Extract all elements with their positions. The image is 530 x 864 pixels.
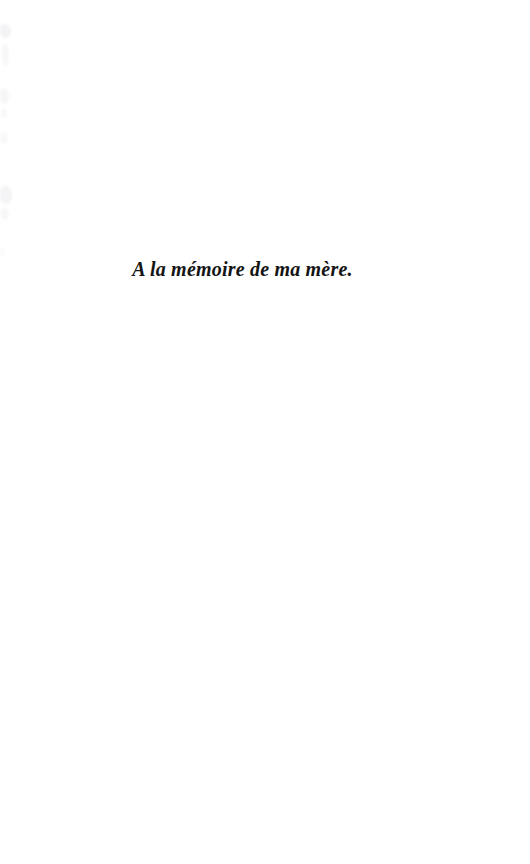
scan-smudge-icon xyxy=(0,132,8,144)
dedication-page: A la mémoire de ma mère. xyxy=(0,0,530,864)
scan-smudge-icon xyxy=(0,88,9,104)
dedication-text: A la mémoire de ma mère. xyxy=(132,256,352,282)
scan-smudge-icon xyxy=(0,24,11,38)
scan-smudge-icon xyxy=(1,208,9,220)
scan-smudge-icon xyxy=(2,44,9,66)
dedication-block: A la mémoire de ma mère. xyxy=(0,236,485,302)
scan-smudge-icon xyxy=(0,186,12,204)
scan-artifact-group xyxy=(0,0,24,864)
scan-smudge-icon xyxy=(1,108,7,118)
